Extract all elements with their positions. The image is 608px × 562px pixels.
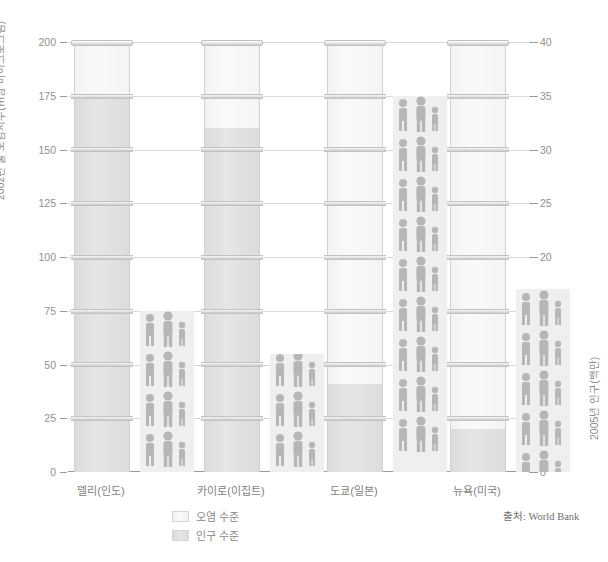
tower-band-delhi-125 [71, 201, 133, 206]
left-tickmark-125 [60, 203, 67, 204]
tower-band-newyork-175 [447, 94, 509, 99]
population-icons-delhi[interactable] [140, 311, 194, 472]
left-axis-tick-50: 50 [22, 359, 56, 371]
chart-canvas: 200 175 150 125 100 75 50 25 0 40 35 30 … [0, 0, 608, 562]
person-icon [393, 96, 447, 472]
plot-area [68, 42, 528, 472]
tower-band-tokyo-75 [324, 309, 386, 314]
tower-band-delhi-150 [71, 147, 133, 152]
left-axis-tick-200: 200 [22, 36, 56, 48]
category-label-delhi: 델리(인도) [26, 482, 176, 498]
tower-band-delhi-50 [71, 362, 133, 367]
right-axis-title: 2005년 인구(백만) [586, 180, 601, 440]
legend-swatch-pollution-icon [172, 511, 189, 522]
legend-item-population[interactable]: 인구 수준 [172, 527, 239, 543]
right-tickmark-0 [529, 472, 538, 473]
left-axis-tick-75: 75 [22, 305, 56, 317]
tower-band-newyork-75 [447, 309, 509, 314]
population-icons-tokyo[interactable] [393, 96, 447, 472]
tower-cap-tokyo [324, 40, 386, 46]
tower-band-cairo-175 [201, 94, 263, 99]
tower-band-newyork-100 [447, 255, 509, 260]
left-tickmark-25 [60, 418, 67, 419]
legend: 오염 수준 인구 수준 [172, 508, 239, 546]
tower-band-delhi-25 [71, 416, 133, 421]
source-note: 출처: World Bank [503, 508, 579, 523]
category-label-newyork: 뉴욕(미국) [402, 482, 552, 498]
left-axis-tick-175: 175 [22, 90, 56, 102]
legend-label-pollution: 오염 수준 [196, 508, 239, 524]
left-tickmark-50 [60, 365, 67, 366]
tower-band-tokyo-100 [324, 255, 386, 260]
left-axis-tick-100: 100 [22, 251, 56, 263]
left-tickmark-0 [60, 472, 67, 473]
left-axis-tick-25: 25 [22, 412, 56, 424]
person-icon [140, 311, 194, 472]
tower-band-tokyo-25 [324, 416, 386, 421]
tower-band-delhi-175 [71, 94, 133, 99]
tower-band-tokyo-175 [324, 94, 386, 99]
left-axis-title: 2002년 물 오염지수(㎥당 마이크로그램) [0, 0, 7, 200]
tower-band-delhi-100 [71, 255, 133, 260]
population-icons-cairo[interactable] [270, 354, 324, 472]
tower-band-tokyo-150 [324, 147, 386, 152]
tower-band-newyork-25 [447, 416, 509, 421]
tower-band-newyork-125 [447, 201, 509, 206]
tower-band-cairo-75 [201, 309, 263, 314]
tower-band-cairo-100 [201, 255, 263, 260]
left-tickmark-175 [60, 96, 67, 97]
left-tickmark-200 [60, 42, 67, 43]
left-axis-tick-125: 125 [22, 197, 56, 209]
tower-band-tokyo-50 [324, 362, 386, 367]
bar-group-newyork[interactable] [444, 42, 559, 472]
tower-cap-newyork [447, 40, 509, 46]
person-icon [516, 289, 570, 472]
left-axis-tick-0: 0 [22, 466, 56, 478]
left-tickmark-75 [60, 311, 67, 312]
legend-item-pollution[interactable]: 오염 수준 [172, 508, 239, 524]
left-tickmark-100 [60, 257, 67, 258]
tower-band-cairo-25 [201, 416, 263, 421]
tower-band-newyork-50 [447, 362, 509, 367]
bar-group-delhi[interactable] [68, 42, 183, 472]
tower-band-tokyo-125 [324, 201, 386, 206]
legend-label-population: 인구 수준 [196, 527, 239, 543]
person-icon [270, 354, 324, 472]
legend-swatch-population-icon [172, 530, 189, 541]
tower-band-delhi-75 [71, 309, 133, 314]
tower-cap-cairo [201, 40, 263, 46]
population-icons-newyork[interactable] [516, 289, 570, 472]
left-axis-tick-150: 150 [22, 144, 56, 156]
tower-band-cairo-150 [201, 147, 263, 152]
bar-group-tokyo[interactable] [321, 42, 436, 472]
tower-band-cairo-125 [201, 201, 263, 206]
tower-band-newyork-150 [447, 147, 509, 152]
bar-group-cairo[interactable] [198, 42, 313, 472]
tower-cap-delhi [71, 40, 133, 46]
tower-band-cairo-50 [201, 362, 263, 367]
left-tickmark-150 [60, 150, 67, 151]
